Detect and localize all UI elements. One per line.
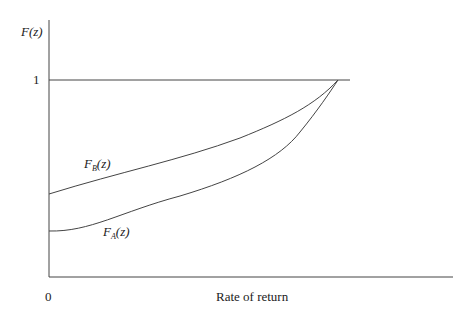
curve-fb-label: FB(z)	[84, 156, 111, 173]
fa-arg: (z)	[116, 224, 130, 239]
curve-fb	[49, 80, 338, 194]
y-axis-label-text: F(z)	[21, 24, 43, 39]
fb-arg: (z)	[97, 156, 111, 171]
x-axis-label: Rate of return	[216, 289, 288, 305]
x-origin-label: 0	[45, 289, 52, 305]
y-tick-one: 1	[33, 72, 40, 88]
fa-main: F	[103, 224, 111, 239]
curve-fa-label: FA(z)	[103, 224, 130, 241]
fb-main: F	[84, 156, 92, 171]
y-axis-label: F(z)	[21, 24, 43, 40]
chart-plot	[0, 0, 473, 316]
